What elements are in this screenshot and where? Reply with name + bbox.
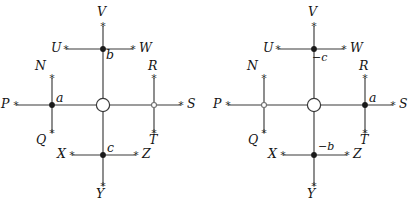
node-minus-b-marker [311, 152, 317, 158]
node-label-minus-c: −c [312, 52, 327, 63]
terminal-marker-W-asterisk: * [130, 43, 136, 56]
terminal-marker-U-asterisk: * [63, 43, 69, 56]
diagram-left-graphics: * * * * * * * * * * * * [0, 0, 207, 208]
terminal-marker-Z-asterisk: * [133, 149, 139, 162]
terminal-label-Y: Y [96, 188, 104, 201]
terminal-label-P: P [213, 98, 221, 111]
terminal-marker-U-asterisk: * [275, 43, 281, 56]
terminal-label-Y: Y [307, 188, 315, 201]
terminal-label-Z: Z [353, 148, 362, 161]
node-left-branch-open-marker [262, 103, 267, 108]
center-junction-open-circle [307, 98, 320, 111]
terminal-label-U: U [263, 42, 274, 55]
diagram-right-graphics: * * * * * * * * * * * * [206, 0, 413, 208]
terminal-label-Z: Z [142, 148, 151, 161]
terminal-marker-X-asterisk: * [280, 149, 286, 162]
terminal-label-T: T [360, 134, 368, 147]
terminal-marker-P-asterisk: * [225, 99, 231, 112]
terminal-label-X: X [268, 148, 277, 161]
terminal-label-W: W [139, 42, 152, 55]
terminal-marker-Q-asterisk: * [261, 127, 267, 140]
node-label-minus-b: −b [318, 141, 334, 152]
terminal-marker-R-asterisk: * [362, 72, 368, 85]
terminal-marker-X-asterisk: * [69, 149, 75, 162]
terminal-label-V: V [308, 6, 317, 19]
terminal-label-P: P [1, 98, 9, 111]
terminal-marker-N-asterisk: * [49, 72, 55, 85]
terminal-label-S: S [187, 98, 196, 111]
node-label-c: c [107, 142, 114, 155]
terminal-label-Q: Q [36, 134, 46, 147]
terminal-marker-V-asterisk: * [311, 20, 317, 33]
terminal-marker-Q-asterisk: * [49, 127, 55, 140]
terminal-label-W: W [350, 42, 363, 55]
node-label-a: a [369, 92, 376, 105]
terminal-label-N: N [35, 60, 46, 73]
node-label-a: a [56, 92, 63, 105]
terminal-marker-W-asterisk: * [341, 43, 347, 56]
diagram-right: * * * * * * * * * * * * V U W N P Q R [206, 0, 413, 208]
terminal-marker-Z-asterisk: * [344, 149, 350, 162]
terminal-marker-R-asterisk: * [151, 72, 157, 85]
node-a-marker [362, 102, 368, 108]
terminal-label-S: S [399, 98, 408, 111]
terminal-marker-S-asterisk: * [390, 99, 396, 112]
terminal-label-U: U [51, 42, 62, 55]
terminal-label-T: T [149, 134, 157, 147]
terminal-label-R: R [359, 60, 368, 73]
node-a-marker [49, 102, 55, 108]
terminal-label-N: N [247, 60, 258, 73]
node-right-branch-open-marker [152, 103, 157, 108]
terminal-marker-V-asterisk: * [100, 20, 106, 33]
terminal-label-R: R [148, 60, 157, 73]
terminal-label-Q: Q [248, 134, 258, 147]
center-junction-open-circle [96, 98, 109, 111]
terminal-label-V: V [97, 6, 106, 19]
figure-canvas: * * * * * * * * * * * * V U W N P Q [0, 0, 413, 208]
terminal-marker-S-asterisk: * [178, 99, 184, 112]
terminal-marker-P-asterisk: * [13, 99, 19, 112]
diagram-left: * * * * * * * * * * * * V U W N P Q [0, 0, 207, 208]
terminal-label-X: X [57, 148, 66, 161]
node-c-marker [100, 152, 106, 158]
node-label-b: b [106, 49, 114, 62]
terminal-marker-N-asterisk: * [261, 72, 267, 85]
